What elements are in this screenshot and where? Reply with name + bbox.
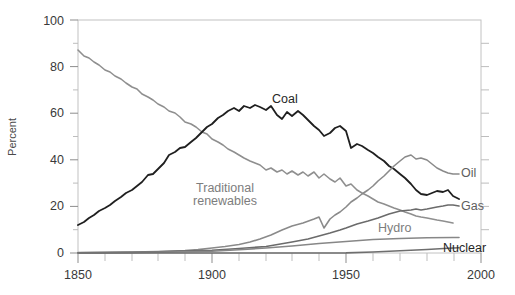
x-tick-label-1900: 1900	[198, 268, 226, 282]
series-label-oil: Oil	[461, 166, 476, 180]
x-tick-label-2000: 2000	[467, 268, 495, 282]
series-label-hydro: Hydro	[378, 221, 411, 235]
plot-area-border	[78, 20, 481, 253]
y-tick-label-40: 40	[50, 153, 64, 167]
y-tick-label-80: 80	[50, 60, 64, 74]
y-tick-label-20: 20	[50, 199, 64, 213]
x-tick-label-1950: 1950	[332, 268, 360, 282]
y-tick-label-0: 0	[57, 246, 64, 260]
energy-share-line-chart: 0 20 40 60 80 100 1850 1900 1950 2000 Pe…	[0, 0, 515, 295]
y-axis-title: Percent	[6, 118, 18, 156]
series-label-nuclear: Nuclear	[443, 241, 486, 255]
x-tick-label-1850: 1850	[64, 268, 92, 282]
chart-figure: 0 20 40 60 80 100 1850 1900 1950 2000 Pe…	[0, 0, 515, 295]
x-axis-minor-ticks	[105, 253, 454, 261]
y-tick-label-100: 100	[43, 14, 64, 28]
series-label-gas: Gas	[461, 199, 484, 213]
series-label-traditional-renewables-line2: renewables	[193, 194, 257, 208]
y-tick-label-60: 60	[50, 106, 64, 120]
y-axis-minor-ticks	[73, 43, 78, 229]
series-label-traditional-renewables-line1: Traditional	[196, 181, 254, 195]
x-axis-major-ticks	[78, 253, 481, 263]
series-label-coal: Coal	[272, 92, 298, 106]
